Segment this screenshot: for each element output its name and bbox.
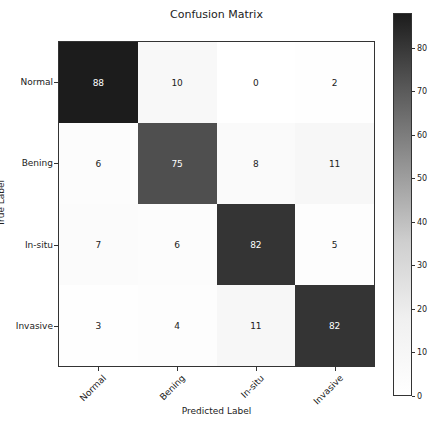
matrix-cell: 88 xyxy=(59,42,138,123)
colorbar-tick-label: 40 xyxy=(417,217,427,226)
matrix-cell: 0 xyxy=(217,42,296,123)
y-tick xyxy=(54,245,58,246)
matrix-cell: 5 xyxy=(295,204,374,285)
colorbar-tick-label: 50 xyxy=(417,174,427,183)
x-tick-label: In-situ xyxy=(239,373,266,400)
matrix-cell: 10 xyxy=(138,42,217,123)
x-tick xyxy=(256,367,257,371)
matrix-cell: 82 xyxy=(295,285,374,366)
colorbar-tick xyxy=(412,352,415,353)
y-tick-label: Normal xyxy=(20,77,53,87)
matrix-cell: 6 xyxy=(138,204,217,285)
x-tick xyxy=(98,367,99,371)
matrix-cell: 7 xyxy=(59,204,138,285)
colorbar-tick xyxy=(412,396,415,397)
colorbar-tick xyxy=(412,135,415,136)
colorbar-tick xyxy=(412,178,415,179)
y-tick xyxy=(54,326,58,327)
y-tick-label: Invasive xyxy=(16,321,53,331)
colorbar-tick-label: 30 xyxy=(417,261,427,270)
matrix-cell: 2 xyxy=(295,42,374,123)
colorbar-tick xyxy=(412,91,415,92)
matrix-cell: 6 xyxy=(59,123,138,204)
y-tick xyxy=(54,163,58,164)
colorbar-tick xyxy=(412,265,415,266)
colorbar-tick-label: 20 xyxy=(417,304,427,313)
x-axis-label: Predicted Label xyxy=(58,406,375,416)
matrix-cell: 8 xyxy=(217,123,296,204)
x-tick-label: Normal xyxy=(78,373,108,403)
colorbar xyxy=(393,13,412,396)
matrix-cell: 3 xyxy=(59,285,138,366)
x-tick xyxy=(335,367,336,371)
colorbar-tick xyxy=(412,222,415,223)
matrix-cell: 75 xyxy=(138,123,217,204)
colorbar-tick-label: 10 xyxy=(417,348,427,357)
colorbar-tick xyxy=(412,309,415,310)
matrix-cell: 82 xyxy=(217,204,296,285)
colorbar-tick-label: 60 xyxy=(417,130,427,139)
matrix-cell: 11 xyxy=(295,123,374,204)
y-tick-label: Bening xyxy=(22,158,53,168)
matrix-cell: 4 xyxy=(138,285,217,366)
colorbar-tick xyxy=(412,48,415,49)
y-tick xyxy=(54,82,58,83)
colorbar-tick-label: 70 xyxy=(417,87,427,96)
x-tick-label: Bening xyxy=(158,373,187,402)
x-tick-label: Invasive xyxy=(312,373,345,406)
colorbar-tick-label: 80 xyxy=(417,43,427,52)
y-axis-label: True Label xyxy=(0,180,6,226)
matrix-cell: 11 xyxy=(217,285,296,366)
chart-title: Confusion Matrix xyxy=(58,8,375,21)
x-tick xyxy=(177,367,178,371)
colorbar-tick-label: 0 xyxy=(417,392,422,401)
confusion-matrix: 88100267581176825341182 xyxy=(58,41,375,367)
y-tick-label: In-situ xyxy=(25,240,53,250)
